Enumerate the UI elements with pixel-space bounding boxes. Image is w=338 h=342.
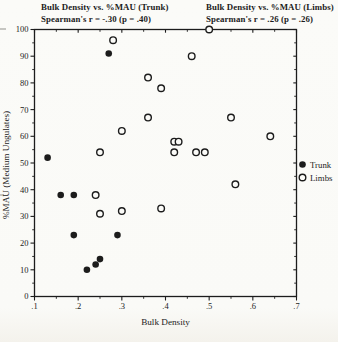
y-tick-label: 60 <box>20 131 29 141</box>
limbs-point <box>158 205 165 212</box>
limbs-point <box>92 192 99 199</box>
scatter-chart: .1.2.3.4.5.6.70102030405060708090100Bulk… <box>0 0 338 342</box>
y-tick-label: 30 <box>20 211 29 221</box>
trunk-point <box>105 50 112 57</box>
limbs-point <box>110 37 117 44</box>
limbs-point <box>119 208 126 215</box>
plot-frame <box>35 30 297 297</box>
trunk-point <box>97 256 104 263</box>
x-tick-label: .1 <box>31 301 37 311</box>
limbs-point <box>119 128 126 135</box>
limbs-point <box>145 114 152 121</box>
limbs-point <box>97 149 104 156</box>
legend-trunk-label: Trunk <box>310 160 332 170</box>
legend-limbs-marker <box>299 174 306 181</box>
x-tick-label: .4 <box>162 301 169 311</box>
limbs-point <box>267 133 274 140</box>
limbs-point <box>171 149 178 156</box>
limbs-point <box>188 53 195 60</box>
y-tick-label: 20 <box>20 238 29 248</box>
x-tick-label: .2 <box>75 301 81 311</box>
y-tick-label: 70 <box>20 105 29 115</box>
x-tick-label: .3 <box>119 301 125 311</box>
y-axis-title: %MAU (Medium Ungulates) <box>1 111 11 219</box>
trunk-point <box>84 267 91 274</box>
trunk-point <box>71 232 78 239</box>
trunk-point <box>57 192 64 199</box>
limbs-point <box>193 149 200 156</box>
limbs-point <box>145 74 152 81</box>
legend-trunk-marker <box>299 161 306 168</box>
y-tick-label: 50 <box>20 158 29 168</box>
trunk-point <box>44 154 51 161</box>
trunk-point <box>92 261 99 268</box>
figure-page: Bulk Density vs. %MAU (Trunk) Spearman's… <box>0 0 338 342</box>
limbs-point <box>175 138 182 145</box>
y-tick-label: 10 <box>20 265 29 275</box>
x-tick-label: .6 <box>250 301 256 311</box>
trunk-point <box>114 232 121 239</box>
y-tick-label: 100 <box>16 24 29 34</box>
trunk-point <box>71 192 78 199</box>
x-tick-label: .7 <box>293 301 299 311</box>
limbs-point <box>158 85 165 92</box>
y-tick-label: 40 <box>20 185 29 195</box>
limbs-point <box>202 149 209 156</box>
x-axis-title: Bulk Density <box>141 317 190 327</box>
limbs-point <box>97 210 104 217</box>
limbs-point <box>206 26 213 33</box>
y-tick-label: 0 <box>24 291 28 301</box>
y-tick-label: 90 <box>20 51 29 61</box>
x-tick-label: .5 <box>206 301 212 311</box>
limbs-point <box>232 181 239 188</box>
legend-limbs-label: Limbs <box>310 173 333 183</box>
y-tick-label: 80 <box>20 78 29 88</box>
limbs-point <box>228 114 235 121</box>
